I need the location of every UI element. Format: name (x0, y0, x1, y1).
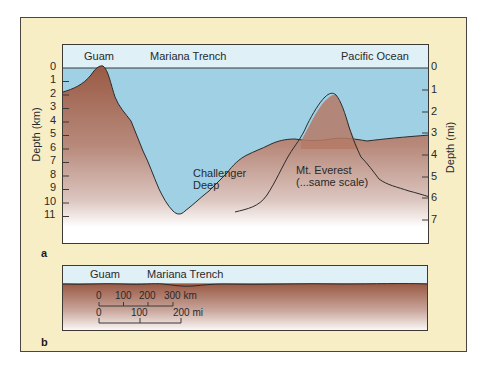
left-tick: 11 (44, 209, 55, 220)
label-mt-everest-2: (...same scale) (296, 177, 368, 188)
sublabel-a: a (41, 247, 47, 259)
right-tick: 2 (431, 106, 437, 117)
right-tick: 4 (431, 149, 437, 160)
left-tick: 8 (50, 169, 56, 180)
right-tick: 6 (431, 192, 437, 203)
mi-tick-0: 0 (96, 308, 102, 318)
left-tick: 6 (50, 142, 56, 153)
figure-frame: Guam Mariana Trench Pacific Ocean Challe… (20, 17, 467, 352)
left-axis-title: Depth (km) (31, 107, 42, 161)
right-tick: 0 (431, 61, 437, 72)
right-tick: 3 (431, 127, 437, 138)
mi-tick-200: 200 mi (173, 308, 203, 318)
left-tick: 4 (50, 115, 56, 126)
km-tick-200: 200 (139, 291, 156, 301)
label-mt-everest-1: Mt. Everest (296, 165, 352, 176)
sublabel-b: b (41, 336, 48, 348)
mi-tick-100: 100 (131, 308, 148, 318)
label-guam: Guam (84, 51, 114, 62)
right-axis-title: Depth (mi) (445, 122, 456, 173)
panel-b-true-scale: Guam Mariana Trench 0 100 200 300 km 0 1… (62, 265, 428, 331)
left-tick: 3 (50, 101, 56, 112)
label-mariana-trench: Mariana Trench (147, 269, 223, 280)
label-challenger-deep-2: Deep (193, 180, 219, 191)
right-tick: 7 (431, 214, 437, 225)
label-mariana-trench: Mariana Trench (150, 51, 226, 62)
label-challenger-deep-1: Challenger (193, 168, 246, 179)
left-tick: 7 (50, 155, 56, 166)
km-tick-0: 0 (96, 291, 102, 301)
right-tick: 5 (431, 171, 437, 182)
label-guam: Guam (90, 269, 120, 280)
km-tick-100: 100 (115, 291, 132, 301)
left-tick: 5 (50, 128, 56, 139)
label-pacific-ocean: Pacific Ocean (341, 51, 409, 62)
right-tick: 1 (431, 84, 437, 95)
left-tick: 2 (50, 88, 56, 99)
left-tick: 0 (50, 61, 56, 72)
km-tick-300: 300 km (164, 291, 197, 301)
panel-a-cross-section: Guam Mariana Trench Pacific Ocean Challe… (62, 44, 429, 244)
cross-section-drawing (63, 45, 429, 244)
left-tick: 10 (44, 196, 56, 207)
left-tick: 9 (50, 182, 56, 193)
left-tick: 1 (50, 74, 56, 85)
